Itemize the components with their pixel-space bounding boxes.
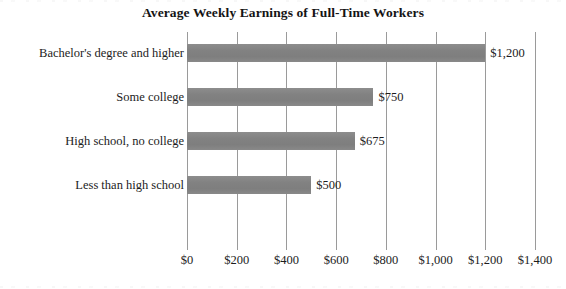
x-tick-label: $1,400: [518, 253, 552, 268]
x-tick-label: $600: [324, 253, 349, 268]
category-label: Less than high school: [0, 178, 184, 192]
gridline-1400: [535, 32, 536, 250]
gridline-1200: [485, 32, 486, 250]
bar-value-label: $500: [316, 178, 341, 192]
x-tick-label: $400: [274, 253, 299, 268]
x-tick-label: $1,200: [468, 253, 502, 268]
bar-value-label: $675: [360, 134, 385, 148]
bar-value-label: $1,200: [490, 46, 524, 60]
bar[interactable]: [187, 132, 355, 150]
category-label: High school, no college: [0, 134, 184, 148]
gridline-800: [386, 32, 387, 250]
category-label: Some college: [0, 90, 184, 104]
x-tick-label: $1,000: [418, 253, 452, 268]
bar[interactable]: [187, 44, 485, 62]
bar[interactable]: [187, 88, 373, 106]
bar[interactable]: [187, 176, 311, 194]
category-axis-labels: Bachelor's degree and higherSome college…: [0, 0, 184, 289]
gridline-1000: [436, 32, 437, 250]
earnings-bar-chart: Average Weekly Earnings of Full-Time Wor…: [0, 0, 566, 289]
bar-value-label: $750: [378, 90, 403, 104]
x-tick-label: $0: [181, 253, 194, 268]
x-tick-label: $200: [224, 253, 249, 268]
category-label: Bachelor's degree and higher: [0, 46, 184, 60]
x-tick-label: $800: [373, 253, 398, 268]
